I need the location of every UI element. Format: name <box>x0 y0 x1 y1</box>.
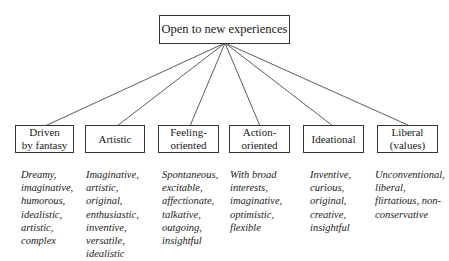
facet-node-feeling: Feeling- oriented <box>158 125 219 153</box>
facet-node-fantasy: Driven by fantasy <box>15 125 74 153</box>
facet-label: Driven by fantasy <box>22 126 68 152</box>
facet-label: Action- oriented <box>241 126 277 152</box>
facet-label: Ideational <box>312 133 356 146</box>
facet-descriptors-fantasy: Dreamy, imaginative, humorous, idealisti… <box>21 168 73 247</box>
facet-node-ideational: Ideational <box>303 125 364 153</box>
facet-descriptors-feeling: Spontaneous, excitable, affectionate, ta… <box>162 168 218 247</box>
root-label: Open to new experiences <box>162 23 288 36</box>
facet-descriptors-ideational: Inventive, curious, original, creative, … <box>310 168 351 234</box>
facet-label: Feeling- oriented <box>170 126 207 152</box>
facet-descriptors-action: With broad interests, imaginative, optim… <box>230 168 282 234</box>
root-node: Open to new experiences <box>159 15 290 44</box>
facet-node-action: Action- oriented <box>229 125 290 153</box>
facet-label: Artistic <box>99 133 132 146</box>
facet-node-artistic: Artistic <box>85 125 145 153</box>
facet-descriptors-liberal: Unconventional, liberal, flirtatious, no… <box>375 168 445 221</box>
facet-label: Liberal (values) <box>390 126 425 152</box>
facet-node-liberal: Liberal (values) <box>377 125 438 153</box>
facet-descriptors-artistic: Imaginative, artistic, original, enthusi… <box>86 168 139 260</box>
